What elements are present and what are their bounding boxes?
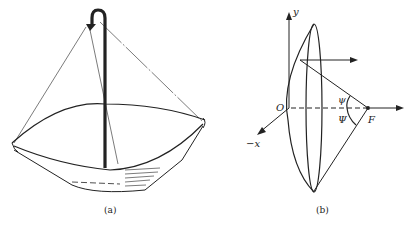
neg-x-axis-label: −x [246,138,260,149]
focus-label: F [368,114,375,125]
origin-label: O [276,102,284,113]
psi-small-label: ψ [338,94,346,105]
diagram-canvas [0,0,412,226]
y-axis-label: y [293,6,299,17]
caption-b: (b) [316,205,329,215]
figure-a-dish-antenna [12,10,205,192]
caption-a: (a) [104,205,116,215]
psi-large-label: Ψ [338,114,347,125]
